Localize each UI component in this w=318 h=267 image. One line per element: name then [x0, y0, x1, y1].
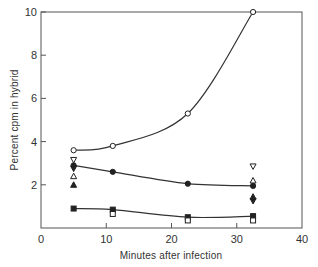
filled-triangle-down-marker [71, 166, 77, 172]
filled-square-marker [71, 206, 76, 211]
filled-triangle-up-marker [71, 182, 77, 188]
y-tick-label: 6 [31, 92, 37, 104]
open-triangle-up-marker [71, 173, 77, 179]
open-circle-marker [71, 148, 76, 153]
curve [74, 12, 253, 150]
filled-circle-marker [110, 169, 115, 174]
y-axis-title: Percent cpm in hybrid [9, 70, 20, 171]
chart: 246810 010203040 Minutes after infection… [0, 0, 318, 267]
y-tick-label: 2 [31, 179, 37, 191]
x-tick-label: 40 [296, 233, 308, 245]
open-square-marker [110, 211, 115, 216]
curve [74, 209, 253, 218]
plot-frame [41, 12, 302, 228]
x-axis-ticks: 010203040 [38, 223, 308, 245]
x-tick-label: 20 [165, 233, 177, 245]
curve [74, 165, 253, 186]
open-circle-marker [185, 111, 190, 116]
fitted-curves [74, 12, 253, 218]
open-square-marker [185, 218, 190, 223]
filled-triangle-up-marker [250, 194, 256, 200]
open-triangle-up-marker [250, 177, 256, 183]
filled-circle-marker [250, 183, 255, 188]
x-axis-title: Minutes after infection [120, 250, 222, 261]
open-triangle-down-marker [71, 157, 77, 163]
x-tick-label: 0 [38, 233, 44, 245]
data-markers [71, 9, 256, 223]
x-tick-label: 10 [100, 233, 112, 245]
y-tick-label: 10 [25, 6, 37, 18]
x-tick-label: 30 [231, 233, 243, 245]
y-tick-label: 4 [31, 136, 37, 148]
filled-circle-marker [185, 181, 190, 186]
open-circle-marker [110, 143, 115, 148]
open-triangle-down-marker [250, 164, 256, 170]
open-square-marker [251, 218, 256, 223]
open-circle-marker [250, 9, 255, 14]
y-axis-ticks: 246810 [25, 6, 46, 191]
y-tick-label: 8 [31, 49, 37, 61]
